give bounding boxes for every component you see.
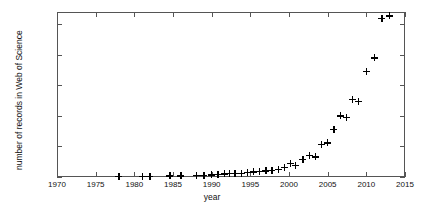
y-tick-right bbox=[400, 146, 405, 147]
x-tick bbox=[366, 172, 367, 177]
x-axis-label: year bbox=[0, 192, 424, 202]
data-point bbox=[115, 173, 122, 180]
y-tick-right bbox=[400, 55, 405, 56]
data-point bbox=[193, 172, 200, 179]
x-tick-top bbox=[328, 12, 329, 17]
x-tick bbox=[328, 172, 329, 177]
data-point bbox=[146, 173, 153, 180]
data-point bbox=[166, 172, 173, 179]
x-tick-label: 2000 bbox=[280, 180, 298, 189]
data-point bbox=[177, 172, 184, 179]
y-tick bbox=[57, 85, 62, 86]
x-tick-label: 2015 bbox=[396, 180, 414, 189]
data-point bbox=[343, 114, 350, 121]
data-point bbox=[292, 162, 299, 169]
x-tick-top bbox=[212, 12, 213, 17]
x-tick-label: 1990 bbox=[203, 180, 221, 189]
y-tick-right bbox=[400, 177, 405, 178]
data-point bbox=[312, 153, 319, 160]
data-point bbox=[139, 173, 146, 180]
y-tick bbox=[57, 116, 62, 117]
y-tick bbox=[57, 24, 62, 25]
x-tick-top bbox=[250, 12, 251, 17]
x-tick-top bbox=[366, 12, 367, 17]
x-tick-top bbox=[289, 12, 290, 17]
y-axis-label: number of records in Web of Science bbox=[14, 30, 24, 170]
x-tick bbox=[405, 172, 406, 177]
data-point bbox=[378, 15, 385, 22]
x-tick-top bbox=[57, 12, 58, 17]
y-tick-right bbox=[400, 116, 405, 117]
x-tick-label: 2005 bbox=[319, 180, 337, 189]
y-tick-right bbox=[400, 85, 405, 86]
x-tick-top bbox=[96, 12, 97, 17]
x-tick-label: 1995 bbox=[241, 180, 259, 189]
x-tick-label: 1980 bbox=[125, 180, 143, 189]
y-axis-tick-labels: 0100200300400500 bbox=[0, 0, 52, 213]
data-point bbox=[363, 68, 370, 75]
data-point bbox=[330, 126, 337, 133]
data-point bbox=[386, 12, 393, 19]
plot-area bbox=[57, 12, 405, 177]
y-tick bbox=[57, 55, 62, 56]
data-point bbox=[324, 139, 331, 146]
y-tick-right bbox=[400, 24, 405, 25]
x-tick bbox=[96, 172, 97, 177]
x-tick-top bbox=[173, 12, 174, 17]
x-tick-label: 1985 bbox=[164, 180, 182, 189]
x-tick bbox=[289, 172, 290, 177]
chart-figure: 1970197519801985199019952000200520102015… bbox=[0, 0, 424, 213]
x-tick-top bbox=[405, 12, 406, 17]
x-tick-top bbox=[134, 12, 135, 17]
data-point bbox=[371, 54, 378, 61]
data-point bbox=[200, 172, 207, 179]
y-tick bbox=[57, 146, 62, 147]
x-tick bbox=[134, 172, 135, 177]
x-tick-label: 2010 bbox=[357, 180, 375, 189]
data-point bbox=[355, 98, 362, 105]
x-tick-label: 1975 bbox=[87, 180, 105, 189]
y-tick bbox=[57, 177, 62, 178]
